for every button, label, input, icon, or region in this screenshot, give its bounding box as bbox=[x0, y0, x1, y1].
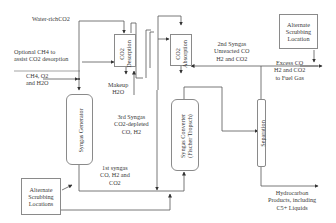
alt-scrubbing-locations-line2: Scrubbing bbox=[28, 193, 53, 200]
first-syngas-label: 1st syngas CO, H2 and CO2 bbox=[100, 164, 130, 186]
makeup-h2o-line1: Makeup bbox=[108, 81, 128, 88]
alt-scrubbing-location-line3: Location bbox=[286, 35, 311, 42]
alt-scrubbing-locations-line3: Locations bbox=[28, 200, 53, 207]
alternate-scrubbing-locations-box: Alternate Scrubbing Locations bbox=[21, 178, 61, 215]
second-syngas-line3: H2 and CO2 bbox=[214, 55, 250, 62]
alt-scrubbing-locations-line1: Alternate bbox=[28, 186, 53, 193]
second-syngas-line2: Unreacted CO bbox=[214, 47, 250, 54]
co2-desorption-line2: Desorption bbox=[125, 40, 132, 68]
excess-co-line3: to Fuel Gas bbox=[274, 74, 305, 81]
first-syngas-line2: CO, H2 and bbox=[100, 171, 130, 178]
co2-desorption-line1: CO2 bbox=[118, 48, 125, 60]
hydrocarbon-products-line3: C5+ Liquids bbox=[268, 204, 316, 211]
co2-absorption-line2: Absorption bbox=[181, 40, 188, 68]
syngas-converter-line2: (Fischer Tropsch) bbox=[186, 114, 193, 158]
hydrocarbon-products-line2: Products, including bbox=[268, 196, 316, 203]
optional-ch4-line2: assist CO2 desorption bbox=[14, 55, 68, 62]
feed-line2: and H2O bbox=[26, 79, 49, 86]
third-syngas-line3: CO, H2 bbox=[114, 128, 149, 135]
co2-absorption-line1: CO2 bbox=[174, 48, 181, 60]
alt-scrubbing-location-line2: Scrubbing bbox=[286, 28, 311, 35]
co2-desorption-label: CO2 Desorption bbox=[118, 31, 132, 77]
alternate-scrubbing-location-box: Alternate Scrubbing Location bbox=[279, 14, 318, 49]
second-syngas-label: 2nd Syngas Unreacted CO H2 and CO2 bbox=[214, 40, 250, 62]
separation-label: Separation bbox=[259, 114, 266, 154]
first-syngas-line3: CO2 bbox=[100, 179, 130, 186]
syngas-generator-unit: Syngas Generator bbox=[66, 94, 93, 165]
second-syngas-line1: 2nd Syngas bbox=[214, 40, 250, 47]
feed-label: CH4, O2 and H2O bbox=[26, 72, 49, 87]
co2-desorption-unit: CO2 Desorption bbox=[114, 34, 136, 67]
syngas-converter-label: Syngas Converter (Fischer Tropsch) bbox=[179, 100, 193, 172]
optional-ch4-label: Optional CH4 to assist CO2 desorption bbox=[14, 48, 68, 63]
makeup-h2o-label: Makeup H2O bbox=[108, 81, 128, 96]
hydrocarbon-products-label: Hydrocarbon Products, including C5+ Liqu… bbox=[268, 189, 316, 211]
co2-absorption-unit: CO2 Absorption bbox=[170, 34, 192, 66]
hydrocarbon-products-line1: Hydrocarbon bbox=[268, 189, 316, 196]
first-syngas-line1: 1st syngas bbox=[100, 164, 130, 171]
feed-line1: CH4, O2 bbox=[26, 72, 49, 79]
syngas-converter-line1: Syngas Converter bbox=[179, 114, 186, 158]
excess-co-line2: H2 and CO2 bbox=[274, 66, 305, 73]
excess-co-label: Excess CO H2 and CO2 to Fuel Gas bbox=[274, 59, 305, 81]
co2-absorption-label: CO2 Absorption bbox=[174, 31, 188, 77]
syngas-generator-label: Syngas Generator bbox=[77, 96, 84, 166]
makeup-h2o-line2: H2O bbox=[108, 88, 128, 95]
water-rich-co2-label: Water-richCO2 bbox=[32, 15, 70, 22]
syngas-converter-unit: Syngas Converter (Fischer Tropsch) bbox=[171, 99, 199, 171]
excess-co-line1: Excess CO bbox=[274, 59, 305, 66]
separation-unit: Separation bbox=[257, 99, 266, 167]
third-syngas-line2: CO2-depleted bbox=[114, 120, 149, 127]
third-syngas-line1: 3rd Syngas bbox=[114, 113, 149, 120]
optional-ch4-line1: Optional CH4 to bbox=[14, 48, 68, 55]
alt-scrubbing-location-line1: Alternate bbox=[286, 21, 311, 28]
third-syngas-label: 3rd Syngas CO2-depleted CO, H2 bbox=[114, 113, 149, 135]
